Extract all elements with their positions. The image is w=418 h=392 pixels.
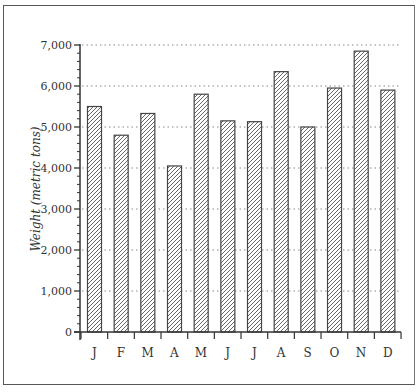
y-tick-label: 6,000 (41, 80, 73, 93)
bar-J (248, 122, 262, 332)
x-tick-label: S (304, 346, 312, 360)
bar-J (221, 121, 235, 332)
gridlines (82, 45, 400, 291)
x-tick-label: F (117, 346, 125, 360)
y-tick-label: 4,000 (41, 162, 73, 175)
bar-N (354, 51, 368, 332)
x-tick-label: O (329, 346, 339, 360)
bar-J (88, 107, 102, 333)
bar-S (301, 127, 315, 332)
x-tick-label: A (276, 346, 286, 360)
y-tick-labels: 01,0002,0003,0004,0005,0006,0007,000 (41, 39, 73, 339)
bar-A (168, 166, 182, 332)
bar-M (141, 113, 155, 332)
bars (88, 51, 395, 332)
bar-chart: 01,0002,0003,0004,0005,0006,0007,000 JFM… (0, 0, 418, 392)
bar-F (114, 135, 128, 332)
x-tick-labels: JFMAMJJASOND (90, 346, 393, 360)
y-tick-label: 7,000 (41, 39, 73, 52)
y-tick-label: 1,000 (41, 285, 73, 298)
y-tick-label: 2,000 (41, 244, 73, 257)
bar-A (274, 72, 288, 332)
bar-O (328, 88, 342, 332)
x-tick-label: J (90, 346, 97, 360)
bar-M (194, 94, 208, 332)
x-tick-label: N (356, 346, 367, 360)
bar-D (381, 90, 395, 332)
x-tick-label: J (250, 346, 257, 360)
x-tick-label: D (383, 346, 393, 360)
y-tick-label: 5,000 (41, 121, 73, 134)
x-tick-label: M (195, 346, 207, 360)
x-tick-label: J (223, 346, 230, 360)
y-tick-label: 3,000 (41, 203, 73, 216)
x-tick-label: M (142, 346, 154, 360)
y-tick-label: 0 (65, 326, 72, 339)
x-tick-label: A (169, 346, 179, 360)
y-axis-label: Weight (metric tons) (29, 126, 43, 251)
